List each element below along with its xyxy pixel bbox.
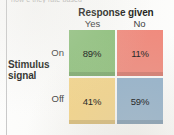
row-header-title-line2: signal: [8, 71, 63, 82]
column-label-no: No: [116, 18, 163, 29]
cell-value-on-yes: 89%: [83, 48, 101, 59]
cell-on-yes: 89%: [69, 30, 115, 76]
column-header-title: Response given: [69, 7, 163, 18]
cell-on-no: 11%: [117, 30, 163, 76]
row-header-title: Stimulus signal: [8, 60, 63, 81]
signal-detection-matrix-figure: how e they rate based Response given Yes…: [0, 0, 174, 135]
column-header-labels: Yes No: [69, 18, 163, 29]
cell-off-no: 59%: [117, 78, 163, 124]
cell-value-off-no: 59%: [131, 96, 149, 107]
cell-value-off-yes: 41%: [83, 96, 101, 107]
row-header-title-line1: Stimulus: [8, 60, 63, 71]
row-label-off: Off: [22, 93, 64, 104]
clipped-body-text: how e they rate based: [11, 0, 131, 3]
column-rule-divider: [6, 0, 7, 135]
cell-value-on-no: 11%: [131, 48, 149, 59]
column-label-yes: Yes: [69, 18, 116, 29]
row-label-on: On: [22, 47, 64, 58]
matrix-grid: 89% 11% 41% 59%: [69, 30, 163, 124]
cell-off-yes: 41%: [69, 78, 115, 124]
